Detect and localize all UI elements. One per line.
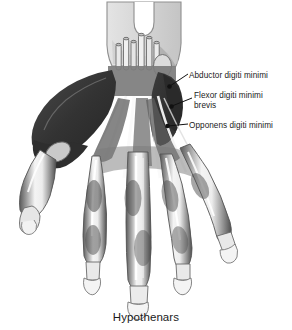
marker-dot-opponens	[165, 124, 170, 129]
label-flexor-line1: Flexor digiti minimi	[194, 91, 263, 100]
thumb-digit	[20, 150, 57, 235]
index-distal-phalanx	[86, 262, 100, 280]
label-flexor-line2: brevis	[194, 101, 263, 111]
label-opponens-line1: Opponens digiti minimi	[189, 121, 273, 130]
thumb-nail-tuft	[22, 220, 37, 235]
middle-finger-digit	[125, 152, 153, 320]
middle-distal-phalanx	[130, 286, 148, 304]
marker-dot-flexor	[169, 104, 174, 109]
ring-distal-phalanx	[176, 264, 190, 280]
label-abductor-line1: Abductor digiti minimi	[189, 71, 268, 80]
ring-finger-digit	[159, 154, 192, 295]
index-finger-digit	[83, 156, 107, 295]
label-flexor-digiti-minimi-brevis: Flexor digiti minimi brevis	[194, 91, 263, 111]
ring-nail-tuft	[174, 278, 192, 295]
hand-anatomy-illustration	[0, 0, 292, 330]
label-abductor-digiti-minimi: Abductor digiti minimi	[189, 71, 268, 81]
marker-dot-abductor	[167, 84, 172, 89]
index-nail-tuft	[84, 278, 101, 295]
forearm-v-notch	[134, 2, 154, 36]
figure-caption: Hypothenars	[0, 311, 292, 323]
label-opponens-digiti-minimi: Opponens digiti minimi	[189, 121, 273, 131]
anatomy-figure: Abductor digiti minimi Flexor digiti min…	[0, 0, 292, 330]
